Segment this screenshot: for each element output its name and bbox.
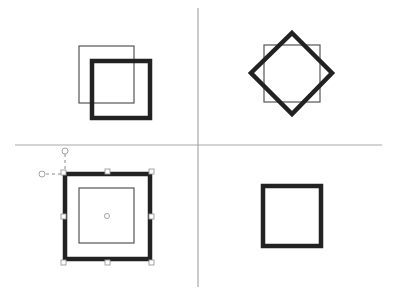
original-square	[79, 46, 134, 103]
rotate-handle-icon[interactable]	[62, 148, 68, 154]
panel-scale	[39, 148, 154, 265]
resize-handle-bottom-right[interactable]	[149, 260, 154, 265]
panel-translate	[79, 46, 150, 118]
skew-handle-icon[interactable]	[39, 171, 45, 177]
translated-square	[92, 61, 150, 118]
resize-handle-top-left[interactable]	[61, 170, 66, 175]
panel-result	[263, 186, 321, 246]
resize-handle-bottom-left[interactable]	[61, 260, 66, 265]
resize-handle-top[interactable]	[105, 169, 110, 174]
result-square	[263, 186, 321, 246]
diagram-canvas	[0, 0, 394, 300]
resize-handle-bottom[interactable]	[105, 260, 110, 265]
resize-handle-top-right[interactable]	[149, 169, 154, 174]
center-point-icon[interactable]	[105, 214, 110, 219]
panel-rotate	[251, 33, 332, 114]
resize-handle-right[interactable]	[149, 214, 154, 219]
resize-handle-left[interactable]	[61, 214, 66, 219]
